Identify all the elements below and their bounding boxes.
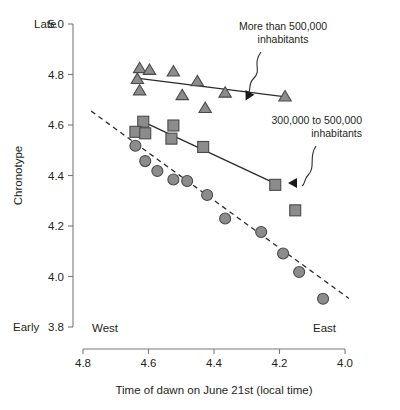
x-axis-right-label: East: [313, 322, 337, 334]
x-tick-label: 4.2: [272, 357, 288, 369]
data-point-circle: [182, 176, 193, 187]
trendline-series-2: [91, 111, 349, 298]
data-point-square: [290, 205, 301, 216]
scatter-plot: 5.04.84.64.44.24.03.8LateEarlyChronotype…: [0, 0, 400, 410]
data-point-square: [270, 179, 281, 190]
data-point-circle: [152, 165, 163, 176]
data-point-triangle: [199, 102, 211, 112]
y-tick-label: 4.4: [48, 170, 65, 182]
annotation-mid-line1: 300,000 to 500,000: [271, 114, 362, 126]
annotation-mid-arrowhead: [288, 178, 297, 188]
annotation-large-leader: [248, 52, 261, 94]
annotation-mid-leader: [302, 146, 316, 186]
annotation-mid-line2: inhabitants: [311, 127, 362, 139]
trendline-series-1: [141, 121, 281, 186]
x-tick-label: 4.6: [141, 357, 157, 369]
chart-figure: 5.04.84.64.44.24.03.8LateEarlyChronotype…: [0, 0, 400, 410]
data-point-square: [138, 116, 149, 127]
data-point-circle: [294, 266, 305, 277]
y-tick-label: 4.0: [48, 271, 64, 283]
y-tick-label: 4.8: [48, 69, 64, 81]
annot-mid-cities: 300,000 to 500,000inhabitants: [271, 114, 362, 188]
y-axis: 5.04.84.64.44.24.03.8LateEarlyChronotype: [12, 18, 73, 333]
data-point-triangle: [176, 89, 188, 99]
y-tick-label: 3.8: [48, 321, 64, 333]
data-point-circle: [278, 248, 289, 259]
annotation-large-line2: inhabitants: [258, 33, 309, 45]
data-point-triangle: [167, 66, 179, 76]
x-axis: 4.84.64.44.24.0WestEastTime of dawn on J…: [75, 322, 353, 396]
data-point-circle: [256, 227, 267, 238]
data-point-circle: [318, 293, 329, 304]
data-point-square: [140, 128, 151, 139]
trendline-series-0: [137, 78, 288, 97]
data-point-square: [166, 133, 177, 144]
data-point-triangle: [133, 85, 145, 95]
data-point-triangle: [191, 75, 203, 85]
y-axis-top-label: Late: [34, 18, 56, 30]
x-tick-label: 4.8: [75, 357, 91, 369]
y-axis-title: Chronotype: [12, 146, 24, 205]
data-point-circle: [130, 140, 141, 151]
y-axis-bottom-label: Early: [13, 321, 39, 333]
x-tick-label: 4.4: [206, 357, 223, 369]
data-point-circle: [220, 213, 231, 224]
data-point-circle: [140, 156, 151, 167]
y-tick-label: 4.2: [48, 220, 64, 232]
x-tick-label: 4.0: [337, 357, 353, 369]
series-2-markers: [130, 140, 329, 304]
annot-large-cities: More than 500,000inhabitants: [239, 20, 327, 103]
y-tick-label: 4.6: [48, 119, 64, 131]
data-point-triangle: [133, 62, 145, 72]
x-axis-left-label: West: [92, 322, 119, 334]
data-point-circle: [168, 174, 179, 185]
data-point-square: [198, 141, 209, 152]
data-point-square: [168, 120, 179, 131]
x-axis-title: Time of dawn on June 21st (local time): [115, 384, 312, 396]
data-point-triangle: [143, 64, 155, 74]
annotation-large-line1: More than 500,000: [239, 20, 327, 32]
data-point-circle: [202, 189, 213, 200]
